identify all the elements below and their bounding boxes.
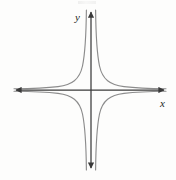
curve-quadrant-1 [96, 10, 166, 89]
graph-figure: y x [0, 0, 176, 180]
y-axis-label: y [75, 12, 80, 23]
axes [16, 12, 164, 168]
curve-quadrant-3 [14, 91, 86, 170]
coordinate-plane-svg [0, 0, 176, 180]
curve-quadrant-4 [96, 91, 166, 170]
x-axis-label: x [160, 98, 165, 109]
